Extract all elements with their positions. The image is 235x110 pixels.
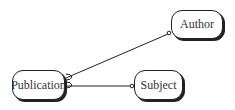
entity-subject[interactable]: Subject [134,70,183,100]
optional-circle-icon [167,31,171,35]
entity-label: Subject [141,78,177,93]
entity-publication[interactable]: Publication [12,70,65,100]
entity-label: Publication [11,78,66,93]
entity-label: Author [180,17,214,32]
entity-author[interactable]: Author [171,10,223,39]
crows-foot-icon [66,82,72,88]
